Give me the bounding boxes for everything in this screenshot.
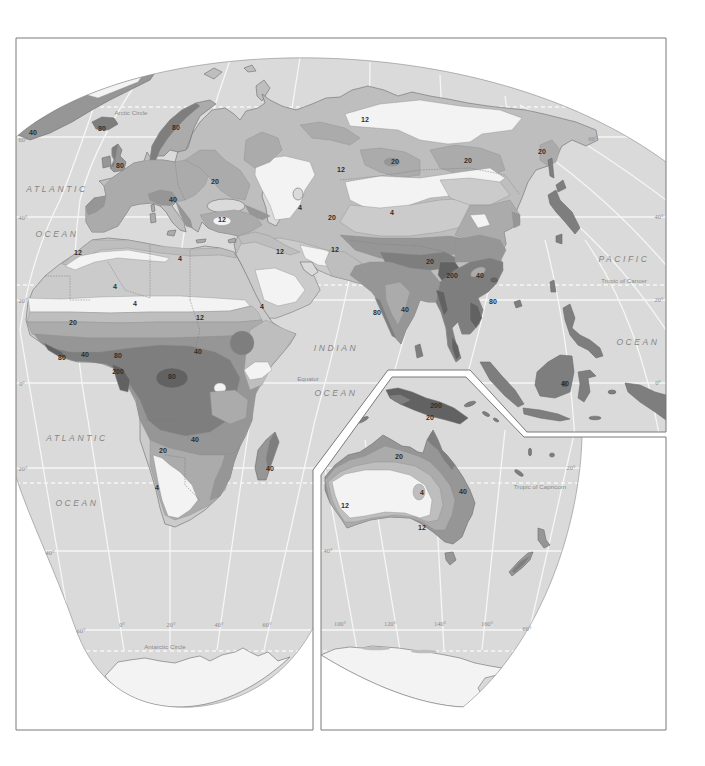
zone-label: 40 <box>169 196 177 203</box>
label-arctic-circle: Arctic Circle <box>114 109 148 116</box>
lon-label-120e: 120° <box>384 620 396 627</box>
zone-label: 4 <box>420 489 424 496</box>
zone-label: 40 <box>81 351 89 358</box>
lat-label-inset-60s: 60° <box>523 625 532 632</box>
zone-label: 40 <box>561 380 569 387</box>
zone-label: 40 <box>191 436 199 443</box>
zone-label: 80 <box>98 125 106 132</box>
zone-label: 80 <box>116 162 124 169</box>
zone-label: 40 <box>459 488 467 495</box>
lat-label-right-20n: 20° <box>655 296 664 303</box>
zone-label: 200 <box>430 402 442 409</box>
label-equator: Equator <box>297 375 319 382</box>
zone-label: 4 <box>178 255 182 262</box>
zone-label: 20 <box>159 447 167 454</box>
lon-label-100e: 100° <box>334 620 346 627</box>
lat-label-left-40n: 40° <box>19 214 28 221</box>
lon-label-160e: 160° <box>481 620 493 627</box>
zone-label: 4 <box>390 209 394 216</box>
zone-label: 20 <box>211 178 219 185</box>
label-north-atlantic-ocean: OCEAN <box>35 229 78 239</box>
land-moluccas <box>608 390 616 394</box>
zone-label: 40 <box>476 272 484 279</box>
label-indian-ocean: OCEAN <box>314 388 357 398</box>
lon-label-20e: 20° <box>167 621 176 628</box>
lat-label-left-20s: 20° <box>19 465 28 472</box>
zone-label: 40 <box>194 348 202 355</box>
zone-label: 12 <box>341 502 349 509</box>
land-ireland <box>102 156 111 168</box>
zone-label: 20 <box>328 214 336 221</box>
aral-sea <box>293 188 303 200</box>
zone-label: 200 <box>112 368 124 375</box>
lat-label-left-60n: 60° <box>19 136 28 143</box>
zone-label: 80 <box>489 298 497 305</box>
lat-label-left-40s: 40° <box>46 549 55 556</box>
zone-label: 80 <box>58 354 66 361</box>
zone-label: 4 <box>298 204 302 211</box>
zone-sudan-20 <box>27 320 266 338</box>
label-south-atlantic: ATLANTIC <box>45 433 107 443</box>
world-rainfall-map: ATLANTIC OCEAN ATLANTIC OCEAN INDIAN OCE… <box>0 0 705 766</box>
lat-label-left-20n: 20° <box>19 297 28 304</box>
zone-label: 12 <box>196 314 204 321</box>
lat-label-right-40n: 40° <box>655 213 664 220</box>
zone-label: 80 <box>168 373 176 380</box>
lat-label-right-0: 0° <box>655 379 661 386</box>
zone-label: 20 <box>391 158 399 165</box>
lon-label-40e: 40° <box>215 621 224 628</box>
zone-label: 40 <box>266 465 274 472</box>
lat-label-left-60s: 60° <box>77 627 86 634</box>
zone-label: 200 <box>446 272 458 279</box>
zone-ethiopia-80 <box>230 331 254 355</box>
zone-antarctic-coast-1 <box>362 647 390 651</box>
zone-label: 12 <box>331 246 339 253</box>
zone-label: 12 <box>276 248 284 255</box>
zone-label: 12 <box>361 116 369 123</box>
zone-label: 12 <box>418 524 426 531</box>
label-pacific: PACIFIC <box>598 254 649 264</box>
zone-label: 12 <box>337 166 345 173</box>
label-tropic-of-capricorn: Tropic of Capricorn <box>514 483 567 490</box>
label-north-atlantic: ATLANTIC <box>25 184 87 194</box>
zone-label: 20 <box>426 414 434 421</box>
label-tropic-of-cancer: Tropic of Cancer <box>601 277 647 284</box>
label-antarctic-circle: Antarctic Circle <box>144 643 186 650</box>
zone-label: 40 <box>401 306 409 313</box>
zone-label: 20 <box>69 319 77 326</box>
zone-label: 20 <box>426 258 434 265</box>
lat-label-inset-20s: 20° <box>567 464 576 471</box>
zone-label: 80 <box>172 124 180 131</box>
land-kyushu <box>556 234 562 244</box>
lat-label-inset-40s: 40° <box>324 547 333 554</box>
land-corsica <box>151 204 155 212</box>
label-indian: INDIAN <box>314 343 358 353</box>
zone-label: 4 <box>260 303 264 310</box>
zone-label: 80 <box>114 352 122 359</box>
lon-label-140e: 140° <box>434 620 446 627</box>
land-fiji <box>550 453 555 457</box>
land-vanuatu <box>528 448 531 456</box>
land-sardinia <box>150 213 156 223</box>
zone-label: 20 <box>464 157 472 164</box>
lat-label-left-0: 0° <box>19 380 25 387</box>
zone-label: 4 <box>113 283 117 290</box>
zone-label: 4 <box>155 484 159 491</box>
zone-antarctic-coast-2 <box>411 650 437 654</box>
label-south-atlantic-ocean: OCEAN <box>55 498 98 508</box>
zone-label: 80 <box>373 309 381 316</box>
land-lesser-sunda <box>589 416 601 420</box>
label-pacific-ocean: OCEAN <box>616 337 659 347</box>
lon-label-60e: 60° <box>263 621 272 628</box>
zone-label: 4 <box>133 300 137 307</box>
zone-label: 20 <box>538 148 546 155</box>
lat-label-right-60n: 60° <box>589 135 598 142</box>
zone-label: 12 <box>74 249 82 256</box>
zone-label: 12 <box>218 216 226 223</box>
zone-label: 40 <box>29 129 37 136</box>
zone-south-china-200 <box>490 277 498 283</box>
lon-label-0: 0° <box>119 621 125 628</box>
zone-label: 20 <box>395 453 403 460</box>
